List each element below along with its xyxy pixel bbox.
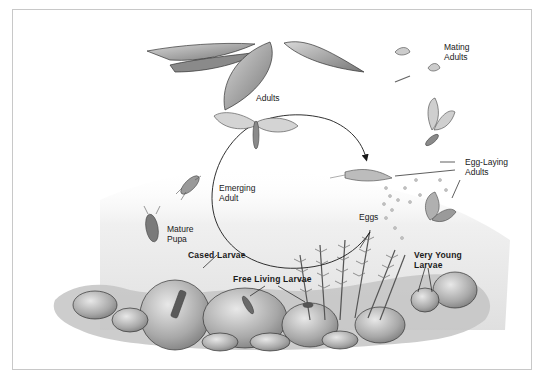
label-mature-pupa-line2: Pupa <box>167 234 193 244</box>
label-mature-pupa: Mature Pupa <box>167 224 193 244</box>
label-egg-laying-line2: Adults <box>465 167 508 177</box>
label-egg-laying-line1: Egg-Laying <box>465 157 508 167</box>
mating-adults <box>395 48 440 83</box>
label-mating-adults: Mating Adults <box>444 42 470 62</box>
label-very-young-line1: Very Young <box>414 250 462 260</box>
label-mature-pupa-line1: Mature <box>167 224 193 234</box>
label-egg-laying-adults: Egg-Laying Adults <box>465 157 508 177</box>
label-emerging-line1: Emerging <box>219 183 255 193</box>
label-eggs: Eggs <box>359 212 378 222</box>
label-emerging-line2: Adult <box>219 193 255 203</box>
egg-laying-adult <box>424 98 455 147</box>
label-adults: Adults <box>256 93 280 103</box>
label-very-young-line2: Larvae <box>414 260 462 270</box>
label-cased-larvae: Cased Larvae <box>188 250 246 260</box>
label-mating-adults-line1: Mating <box>444 42 470 52</box>
adult-insect <box>214 113 298 149</box>
label-mating-adults-line2: Adults <box>444 52 470 62</box>
label-emerging-adult: Emerging Adult <box>219 183 255 203</box>
label-very-young-larvae: Very Young Larvae <box>414 250 462 270</box>
label-free-living-larvae: Free Living Larvae <box>233 274 312 284</box>
